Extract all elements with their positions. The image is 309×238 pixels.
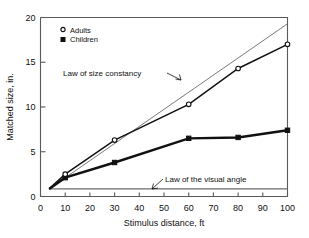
data-point-marker	[186, 102, 191, 107]
x-tick-label: 10	[60, 203, 70, 213]
legend-marker-open-circle-icon	[61, 27, 65, 31]
x-tick-label: 20	[85, 203, 95, 213]
annotation-visual-angle: Law of the visual angle	[152, 175, 247, 189]
legend-label-children: Children	[70, 35, 98, 44]
y-tick-label: 20	[25, 13, 35, 23]
annotation-size-constancy: Law of size constancy	[63, 69, 181, 80]
y-tick-label: 5	[30, 147, 35, 157]
x-axis-title: Stimulus distance, ft	[124, 218, 205, 228]
x-axis-tick-labels: 0102030405060708090100	[38, 203, 295, 213]
legend-marker-filled-square-icon	[61, 38, 65, 42]
data-point-marker	[112, 138, 117, 143]
data-point-marker	[187, 136, 191, 140]
y-axis-title: Matched size, in.	[5, 73, 15, 141]
chart-svg: 05101520 0102030405060708090100 Law of s…	[0, 0, 309, 238]
data-point-marker	[236, 66, 241, 71]
series-line-adults	[49, 44, 287, 189]
data-point-marker	[63, 172, 68, 177]
x-tick-label: 50	[159, 203, 169, 213]
x-tick-label: 90	[258, 203, 268, 213]
data-point-marker	[236, 135, 240, 139]
annotation-size-constancy-leader	[167, 73, 181, 80]
y-tick-label: 10	[25, 102, 35, 112]
x-axis-ticks	[41, 193, 288, 197]
annotation-size-constancy-label: Law of size constancy	[63, 69, 141, 78]
chart-figure: 05101520 0102030405060708090100 Law of s…	[0, 0, 309, 238]
annotation-visual-angle-label: Law of the visual angle	[165, 175, 247, 184]
legend-label-adults: Adults	[70, 26, 91, 35]
data-point-marker	[285, 42, 290, 47]
data-point-marker	[112, 160, 116, 164]
x-tick-label: 40	[134, 203, 144, 213]
x-tick-label: 80	[233, 203, 243, 213]
chart-legend: Adults Children	[61, 26, 98, 44]
x-tick-label: 30	[110, 203, 120, 213]
y-axis-tick-labels: 05101520	[25, 13, 35, 202]
x-tick-label: 100	[280, 203, 295, 213]
y-tick-label: 15	[25, 57, 35, 67]
x-tick-label: 0	[38, 203, 43, 213]
x-tick-label: 60	[184, 203, 194, 213]
reference-line-size-constancy	[49, 24, 287, 189]
x-tick-label: 70	[208, 203, 218, 213]
y-axis-ticks	[41, 18, 46, 197]
data-point-marker	[285, 128, 289, 132]
y-tick-label: 0	[30, 192, 35, 202]
